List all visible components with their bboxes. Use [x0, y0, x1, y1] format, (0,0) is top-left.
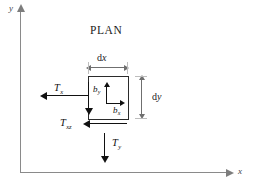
Ty-vector-shaft [104, 133, 105, 157]
by-subscript: y [98, 89, 101, 95]
Txz-vector-shaft [89, 123, 127, 124]
dy-bottom-extension [135, 118, 147, 119]
bx-subscript: x [118, 110, 121, 116]
x-axis-line [20, 172, 228, 173]
Ty-base: T [112, 137, 118, 148]
Tx-vector-shaft [46, 95, 88, 96]
dy-dimension-label: dy [152, 92, 161, 102]
y-axis-label: y [9, 4, 13, 13]
bx-arrowhead [120, 100, 125, 106]
Tx-base: T [54, 82, 60, 93]
Txz-subscript: xz [66, 123, 71, 130]
bx-base: b [113, 105, 118, 115]
dy-symbol: y [157, 91, 161, 102]
x-axis-arrowhead [226, 169, 234, 177]
dx-left-extension [88, 62, 89, 74]
by-vector-shaft [106, 86, 107, 103]
Tx-label: Tx [54, 83, 63, 94]
dx-right-extension [127, 62, 128, 74]
plan-title: PLAN [90, 25, 122, 37]
bx-vector-shaft [106, 103, 121, 104]
by-label: by [93, 85, 100, 94]
by-arrowhead [104, 82, 110, 87]
Ty-subscript: y [118, 143, 121, 150]
x-axis-label: x [238, 167, 242, 176]
left-face-shear-shaft [88, 82, 89, 109]
Ty-arrowhead [101, 156, 109, 163]
Txz-base: T [60, 117, 66, 128]
dx-dimension-line [90, 67, 126, 68]
Txz-label: Txz [60, 118, 71, 129]
by-base: b [93, 84, 98, 94]
dy-top-extension [135, 76, 147, 77]
dx-dimension-label: dx [97, 53, 106, 63]
Txz-arrowhead [83, 120, 90, 128]
y-axis-arrowhead [17, 4, 25, 12]
dy-dimension-line [141, 80, 142, 114]
left-face-shear-arrowhead [85, 108, 93, 115]
Ty-label: Ty [112, 138, 121, 149]
y-axis-line [20, 12, 21, 173]
dx-symbol: x [102, 52, 106, 63]
Tx-arrowhead [40, 92, 47, 100]
bx-label: bx [113, 106, 120, 115]
Tx-subscript: x [60, 88, 63, 95]
plan-free-body-diagram: y x PLAN dx dy by bx Tx Txz Ty [0, 0, 254, 189]
